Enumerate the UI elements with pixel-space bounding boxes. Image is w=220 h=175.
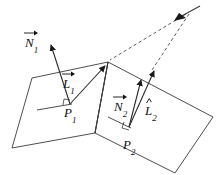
right-angle-marker-2 [122,122,129,130]
dashed-ray-to-point-2 [152,14,189,70]
label-subscript: 2 [123,109,128,119]
label-light-vector-2: L 2 [145,102,157,121]
scene-svg [0,0,220,175]
left-surface-patch [12,62,108,148]
label-point-2: P2 [123,136,135,155]
label-subscript: 1 [34,45,39,55]
light-vector-1 [70,66,105,104]
label-subscript: 1 [70,86,75,96]
label-normal-2: N 2 [114,98,127,117]
label-base: P [123,137,131,152]
label-base: P [64,105,72,120]
label-subscript: 1 [72,115,77,125]
ridge-edge [95,62,108,133]
label-point-1: P1 [64,104,76,123]
label-subscript: 2 [152,113,157,123]
label-base: N [25,35,34,50]
label-normal-1: N 1 [25,34,38,53]
dashed-ray-to-ridge [110,14,186,60]
label-light-vector-1: L 1 [63,75,75,94]
tangent-line-2 [108,117,131,128]
label-subscript: 2 [131,147,136,157]
label-base: N [114,99,123,114]
diagram-canvas: N 1 L 1 P1 N 2 [0,0,220,175]
